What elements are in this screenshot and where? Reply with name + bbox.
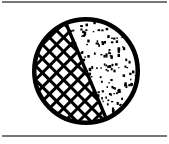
stipple-dot: [109, 65, 111, 68]
stipple-dot: [102, 41, 104, 45]
stipple-dot: [122, 46, 123, 48]
stipple-dot: [103, 55, 105, 58]
stipple-dot: [81, 36, 83, 37]
stipple-dot: [121, 98, 123, 100]
stipple-dot: [73, 30, 75, 32]
stipple-dot: [107, 103, 109, 105]
stipple-dot: [115, 63, 118, 65]
stipple-dot: [111, 94, 112, 95]
stipple-dot: [85, 35, 86, 36]
stipple-dot: [112, 64, 114, 66]
stipple-dot: [105, 97, 107, 99]
stipple-dot: [80, 28, 82, 30]
stipple-dot: [119, 104, 121, 106]
stipple-dot: [100, 54, 102, 55]
stipple-dot: [94, 52, 96, 54]
stipple-dot: [113, 70, 115, 73]
stipple-dot: [113, 38, 116, 40]
stipple-dot: [100, 76, 102, 78]
figure-illustration: Hatched and stippled divided circle diag…: [0, 0, 169, 144]
stipple-dot: [106, 28, 109, 30]
stipple-dot: [91, 66, 93, 69]
stipple-dot: [106, 69, 108, 71]
stipple-dot: [132, 83, 133, 85]
stipple-dot: [97, 43, 99, 45]
stipple-dot: [107, 70, 109, 71]
stipple-dot: [107, 99, 109, 101]
stipple-dot: [89, 69, 91, 71]
stipple-dot: [105, 53, 107, 56]
stipple-dot: [86, 24, 89, 27]
stipple-dot: [93, 31, 95, 32]
stipple-dot: [118, 50, 119, 51]
stipple-dot: [97, 40, 98, 42]
stipple-dot: [129, 61, 131, 64]
stipple-dot: [101, 29, 103, 31]
stipple-dot: [118, 54, 121, 57]
stipple-dot: [87, 55, 89, 58]
stipple-dot: [106, 56, 108, 58]
stipple-dot: [128, 84, 130, 86]
stipple-dot: [118, 67, 119, 68]
stipple-dot: [110, 55, 112, 59]
stipple-dot: [110, 79, 112, 81]
stipple-dot: [81, 25, 82, 26]
stipple-dot: [111, 38, 113, 39]
stipple-dot: [113, 93, 115, 94]
stipple-dot: [124, 66, 126, 68]
stipple-dot: [111, 68, 113, 70]
stipple-dot: [91, 76, 93, 77]
stipple-dot: [123, 74, 126, 77]
stipple-dot: [101, 97, 103, 99]
stipple-dot: [98, 29, 101, 31]
stipple-dot: [98, 91, 100, 93]
stipple-dot: [125, 59, 127, 62]
stipple-dot: [82, 31, 85, 33]
stipple-dot: [117, 102, 119, 105]
stipple-dot: [87, 40, 89, 43]
stipple-dot: [116, 37, 118, 38]
stipple-dot: [111, 101, 113, 102]
stipple-dot: [109, 49, 111, 51]
stipple-dot: [86, 44, 88, 45]
stipple-dot: [104, 63, 106, 65]
figure-canvas: Hatched and stippled divided circle diag…: [0, 0, 169, 144]
stipple-dot: [107, 35, 109, 38]
stipple-dot: [108, 82, 109, 83]
stipple-dot: [111, 86, 113, 88]
stipple-dot: [105, 64, 107, 66]
stipple-dot: [124, 82, 127, 86]
stipple-dot: [102, 90, 104, 92]
stipple-dot: [85, 29, 87, 31]
stipple-dot: [117, 90, 119, 93]
stipple-dot: [126, 67, 128, 68]
stipple-dot: [84, 56, 86, 57]
stipple-dot: [103, 101, 104, 103]
stipple-dot: [108, 52, 110, 54]
stipple-dot: [129, 73, 131, 75]
stipple-dot: [100, 67, 101, 68]
stipple-dot: [101, 81, 103, 83]
stipple-dot: [80, 52, 82, 54]
stipple-dot: [111, 41, 114, 43]
stipple-dot: [132, 71, 134, 74]
stipple-dot: [116, 40, 118, 43]
stipple-dot: [96, 67, 98, 69]
stipple-dot: [107, 86, 108, 88]
stipple-dot: [107, 65, 109, 68]
stipple-dot: [104, 41, 106, 44]
stipple-dot: [130, 79, 131, 81]
